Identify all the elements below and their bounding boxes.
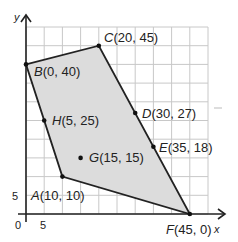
point-label-h: H(5, 25) [52,113,99,128]
y-tick-5-label: 5 [12,190,18,202]
point-a [60,174,65,179]
x-tick-5-label: 5 [40,219,46,231]
point-label-f: F(45, 0) [166,222,212,237]
point-f [188,212,193,217]
point-label-b: B(0, 40) [34,64,80,79]
point-label-a: A(10, 10) [30,188,84,203]
origin-label: 0 [15,219,21,231]
point-label-d: D(30, 27) [142,106,196,121]
point-c [97,43,102,48]
coordinate-plane: x y 0 5 5 A(10, 10) B(0, 40) C(20, 45) D… [0,0,238,242]
x-axis-label: x [213,223,220,235]
point-g [78,156,83,161]
point-label-e: E(35, 18) [159,140,212,155]
point-label-g: G(15, 15) [89,150,144,165]
point-label-c: C(20, 45) [104,30,158,45]
point-b [24,62,29,67]
point-h [42,118,47,123]
y-axis-label: y [13,11,21,23]
point-d [133,111,138,116]
point-e [151,144,156,149]
